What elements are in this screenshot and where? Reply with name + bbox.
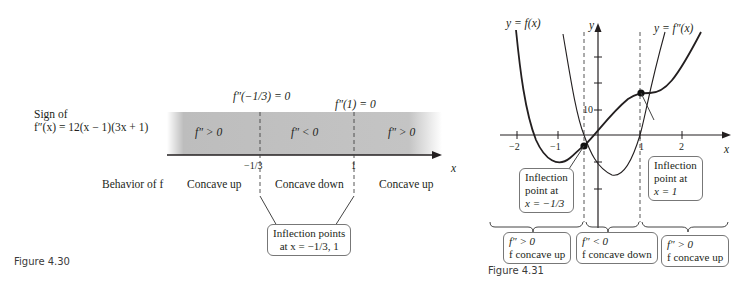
region-left-concavity: f concave up [509,248,565,261]
callout-right-line-3: x = 1 [654,185,697,198]
brace-right [642,222,728,232]
region-left-sign: f″ > 0 [509,235,565,248]
x-tick-neg1: −1 [550,141,561,152]
region-middle-concavity: f concave down [582,248,652,261]
callout-left-line-1: Inflection [525,171,568,184]
curve-f-double-prime [563,32,665,175]
brace-left [490,222,583,232]
region-box-left: f″ > 0 f concave up [503,232,571,264]
y-axis-label: y [589,19,594,31]
x-tick-2: 2 [679,141,684,152]
callout-left-line-2: point at [525,184,568,197]
region-box-right: f″ > 0 f concave up [661,235,729,267]
x-axis-arrow-icon [722,132,731,139]
x-axis-label: x [724,143,729,155]
figure-caption-4-31: Figure 4.31 [488,265,544,276]
region-box-middle: f″ < 0 f concave down [576,232,658,264]
y-tick-10: 10 [583,104,593,115]
callout-right-line-1: Inflection [654,159,697,172]
x-tick-1: 1 [639,141,644,152]
callout-inflection-one: Inflection point at x = 1 [648,156,703,201]
curve-label-f-double-prime: y = f″(x) [654,22,693,34]
callout-inflection-neg-third: Inflection point at x = −1/3 [519,168,574,213]
y-axis-arrow-icon [595,23,602,32]
curve-label-f: y = f(x) [506,17,541,29]
callout-left-line-3: x = −1/3 [525,197,568,210]
region-right-concavity: f concave up [667,251,723,264]
callout-right-line-2: point at [654,172,697,185]
region-right-sign: f″ > 0 [667,238,723,251]
curve-f [516,30,701,162]
region-middle-sign: f″ < 0 [582,235,652,248]
brace-middle [586,222,639,232]
x-tick-neg2: −2 [509,141,520,152]
